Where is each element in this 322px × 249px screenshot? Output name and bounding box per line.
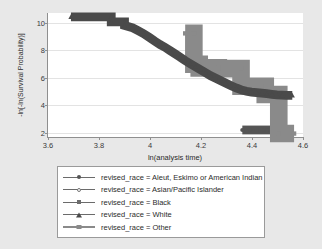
legend-item-black[interactable]: revised_race = Black	[63, 196, 259, 209]
legend-item-asian-pacific-islander[interactable]: revised_race = Asian/Pacific Islander	[63, 184, 259, 197]
x-tick-label: 4.6	[298, 141, 308, 150]
data-point	[216, 66, 220, 70]
legend-label: revised_race = Black	[101, 198, 171, 207]
data-point	[277, 131, 281, 135]
legend-box: revised_race = Aleut, Eskimo or American…	[57, 166, 265, 238]
legend-item-aleut[interactable]: revised_race = Aleut, Eskimo or American…	[63, 171, 259, 184]
legend-item-other[interactable]: revised_race = Other	[63, 221, 259, 234]
legend-label: revised_race = Aleut, Eskimo or American…	[101, 173, 263, 182]
x-tick-mark	[201, 137, 202, 140]
x-tick-label: 4.4	[247, 141, 257, 150]
x-tick-mark	[150, 137, 151, 140]
x-tick-label: 4.2	[196, 141, 206, 150]
data-point	[248, 128, 252, 132]
legend-label: revised_race = Asian/Pacific Islander	[101, 185, 224, 194]
data-point	[292, 131, 296, 135]
x-tick-mark	[99, 137, 100, 140]
series-2	[183, 31, 296, 136]
chart-screenshot: -ln[-ln(Survival Probability)] 246810 3.…	[0, 0, 322, 249]
x-tick-label: 3.8	[94, 141, 104, 150]
x-tick-mark	[303, 137, 304, 140]
x-tick-label: 4	[148, 141, 152, 150]
legend-item-white[interactable]: revised_race = White	[63, 209, 259, 222]
x-tick-label: 3.6	[43, 141, 53, 150]
x-tick-mark	[48, 137, 49, 140]
x-axis-title: ln(analysis time)	[47, 153, 303, 162]
series-layer	[48, 13, 303, 137]
legend-label: revised_race = White	[101, 210, 172, 219]
data-point	[239, 66, 243, 70]
data-point	[240, 128, 244, 132]
x-tick-mark	[252, 137, 253, 140]
series-0	[240, 128, 272, 132]
square-marker-icon	[63, 222, 95, 233]
data-point	[183, 31, 187, 35]
plot-area: 246810 3.63.844.24.44.6	[47, 13, 303, 138]
data-point	[192, 31, 196, 35]
data-point	[263, 84, 267, 88]
triangle-marker-icon	[63, 209, 95, 220]
series-line	[185, 33, 294, 133]
circle-marker-icon	[63, 172, 95, 183]
open-circle-marker-icon	[63, 184, 95, 195]
square-marker-icon	[63, 197, 95, 208]
legend-label: revised_race = Other	[101, 223, 171, 232]
data-point	[254, 128, 258, 132]
data-point	[265, 128, 269, 132]
plot-card: -ln[-ln(Survival Probability)] 246810 3.…	[14, 7, 306, 160]
